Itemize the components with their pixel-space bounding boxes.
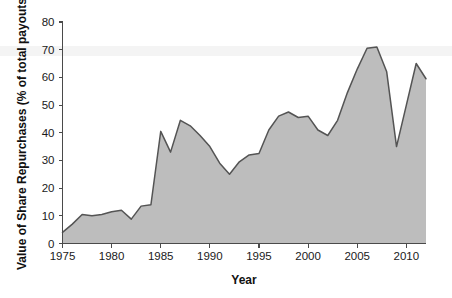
x-tick-label: 2005 [344, 250, 370, 262]
x-tick-label: 1975 [50, 250, 76, 262]
x-axis-title: Year [231, 273, 257, 287]
background-band [0, 46, 452, 56]
area-chart: 01020304050607080 1975198019851990199520… [0, 0, 452, 298]
x-tick-label: 1980 [99, 250, 125, 262]
y-tick-label: 0 [48, 238, 54, 250]
chart-figure: 01020304050607080 1975198019851990199520… [0, 0, 452, 298]
y-tick-label: 60 [42, 71, 55, 83]
y-tick-label: 80 [42, 16, 55, 28]
y-tick-label: 30 [42, 154, 55, 166]
y-tick-label: 70 [42, 44, 55, 56]
y-tick-label: 10 [42, 210, 55, 222]
y-tick-label: 40 [42, 127, 55, 139]
y-tick-label: 20 [42, 182, 55, 194]
x-tick-label: 2000 [295, 250, 321, 262]
x-tick-label: 1995 [246, 250, 272, 262]
y-tick-label: 50 [42, 99, 55, 111]
y-axis-title: Value of Share Repurchases (% of total p… [15, 0, 29, 270]
x-tick-label: 1985 [148, 250, 174, 262]
x-tick-label: 2010 [394, 250, 420, 262]
x-tick-label: 1990 [197, 250, 223, 262]
